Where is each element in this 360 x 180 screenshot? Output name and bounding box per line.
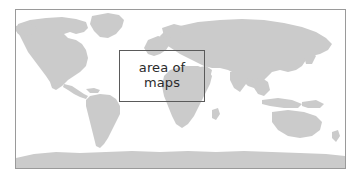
land-antarctica [16,151,345,168]
land-central-america [63,84,88,99]
land-new-guinea [302,100,324,108]
land-caribbean [86,88,100,93]
land-new-zealand [332,130,340,142]
world-locator-figure: area of maps [0,0,360,180]
land-south-america [86,94,120,148]
map-frame: area of maps [15,9,346,169]
area-of-maps-label: area of maps [139,61,185,90]
land-madagascar [212,108,220,120]
land-southeast-asia [252,78,270,96]
land-australia [272,110,322,138]
area-of-maps-inset-box: area of maps [119,50,205,102]
land-indonesia [262,98,302,108]
land-greenland [90,13,124,38]
land-india [230,72,248,92]
